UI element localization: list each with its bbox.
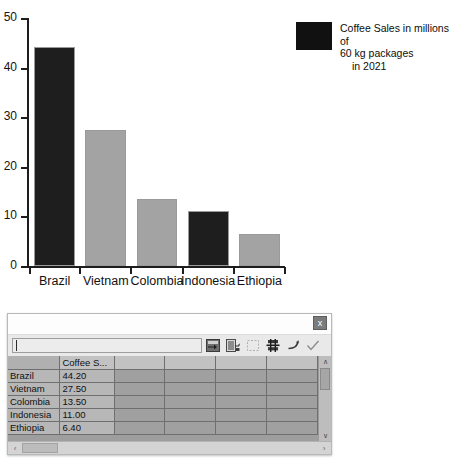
grid-empty-cell[interactable] bbox=[114, 382, 165, 395]
grid-empty-cell[interactable] bbox=[216, 395, 267, 408]
horizontal-scrollbar[interactable]: ‹ › bbox=[8, 441, 331, 454]
grid-empty-cell[interactable] bbox=[114, 369, 165, 382]
bar bbox=[85, 130, 126, 266]
scroll-up-icon[interactable]: ∧ bbox=[319, 356, 331, 367]
y-axis-tick: 30 bbox=[21, 117, 28, 119]
legend-label-line3: in 2021 bbox=[340, 60, 450, 73]
x-axis-tick bbox=[233, 267, 235, 274]
y-axis-tick-label: 20 bbox=[4, 159, 17, 173]
y-axis-tick-label: 0 bbox=[10, 258, 17, 272]
grid-value-cell[interactable]: 6.40 bbox=[60, 421, 114, 434]
grid-empty-cell[interactable] bbox=[165, 369, 216, 382]
horizontal-scrollbar-thumb[interactable] bbox=[22, 443, 58, 453]
grid-empty-cell[interactable] bbox=[165, 395, 216, 408]
data-grid[interactable]: Coffee S... Brazil44.20Vietnam27.50Colom… bbox=[8, 356, 318, 435]
grid-value-cell[interactable]: 11.00 bbox=[60, 408, 114, 421]
dialog-titlebar: x bbox=[8, 314, 331, 335]
bar bbox=[188, 211, 229, 266]
legend-label-line1: Coffee Sales in millions of bbox=[340, 22, 449, 47]
grid-empty-cell[interactable] bbox=[267, 408, 318, 421]
grid-row-label[interactable]: Ethiopia bbox=[8, 421, 60, 434]
grid-empty-cell[interactable] bbox=[165, 421, 216, 434]
grid-empty-cell[interactable] bbox=[165, 408, 216, 421]
bar bbox=[34, 47, 75, 266]
close-icon[interactable]: x bbox=[313, 316, 327, 330]
grid-column-header[interactable]: Coffee S... bbox=[60, 356, 114, 369]
table-row[interactable]: Brazil44.20 bbox=[8, 369, 318, 382]
delete-row-icon[interactable] bbox=[264, 337, 282, 354]
grid-empty-cell[interactable] bbox=[165, 382, 216, 395]
cell-input-field[interactable] bbox=[12, 338, 202, 353]
grid-empty-cell[interactable] bbox=[114, 408, 165, 421]
y-axis-tick: 40 bbox=[21, 68, 28, 70]
x-axis-tick bbox=[284, 267, 286, 274]
bars-layer bbox=[29, 18, 285, 266]
move-series-left-icon[interactable] bbox=[284, 337, 302, 354]
chart-legend: Coffee Sales in millions of 60 kg packag… bbox=[296, 22, 450, 72]
table-row[interactable]: Colombia13.50 bbox=[8, 395, 318, 408]
y-axis-tick-label: 30 bbox=[4, 109, 17, 123]
x-axis-tick bbox=[182, 267, 184, 274]
table-row[interactable]: Ethiopia6.40 bbox=[8, 421, 318, 434]
vertical-scrollbar-thumb[interactable] bbox=[320, 368, 330, 390]
table-row[interactable]: Vietnam27.50 bbox=[8, 382, 318, 395]
data-grid-container: Coffee S... Brazil44.20Vietnam27.50Colom… bbox=[8, 356, 331, 441]
grid-corner-cell[interactable] bbox=[8, 356, 60, 369]
bar bbox=[239, 234, 280, 266]
x-axis-tick bbox=[130, 267, 132, 274]
y-axis-tick-label: 50 bbox=[4, 10, 17, 24]
grid-column-header[interactable] bbox=[216, 356, 267, 369]
grid-empty-cell[interactable] bbox=[216, 421, 267, 434]
grid-row-label[interactable]: Brazil bbox=[8, 369, 60, 382]
grid-empty-cell[interactable] bbox=[216, 408, 267, 421]
legend-label-line2: 60 kg packages bbox=[340, 47, 450, 60]
accept-icon[interactable] bbox=[304, 337, 322, 354]
insert-series-icon[interactable] bbox=[224, 337, 242, 354]
grid-value-cell[interactable]: 27.50 bbox=[60, 382, 114, 395]
x-axis-label: Colombia bbox=[131, 274, 184, 288]
grid-row-label[interactable]: Colombia bbox=[8, 395, 60, 408]
y-axis-tick-label: 10 bbox=[4, 208, 17, 222]
grid-row-label[interactable]: Vietnam bbox=[8, 382, 60, 395]
grid-column-header[interactable] bbox=[165, 356, 216, 369]
grid-column-header[interactable] bbox=[267, 356, 318, 369]
grid-empty-cell[interactable] bbox=[267, 369, 318, 382]
grid-value-cell[interactable]: 13.50 bbox=[60, 395, 114, 408]
dialog-toolbar bbox=[8, 335, 331, 356]
table-row[interactable]: Indonesia11.00 bbox=[8, 408, 318, 421]
insert-text-column-icon[interactable] bbox=[244, 337, 262, 354]
y-axis-tick: 10 bbox=[21, 216, 28, 218]
data-grid-header-row: Coffee S... bbox=[8, 356, 318, 369]
y-axis-tick: 20 bbox=[21, 167, 28, 169]
grid-value-cell[interactable]: 44.20 bbox=[60, 369, 114, 382]
grid-empty-cell[interactable] bbox=[114, 421, 165, 434]
legend-swatch bbox=[296, 22, 332, 50]
data-grid-body: Brazil44.20Vietnam27.50Colombia13.50Indo… bbox=[8, 369, 318, 434]
grid-empty-cell[interactable] bbox=[114, 395, 165, 408]
x-axis-tick bbox=[29, 267, 31, 274]
grid-empty-cell[interactable] bbox=[216, 369, 267, 382]
x-axis-label: Indonesia bbox=[181, 274, 235, 288]
x-axis-labels: BrazilVietnamColombiaIndonesiaEthiopia bbox=[27, 274, 285, 294]
chart-data-table-dialog: x bbox=[7, 313, 332, 455]
y-axis-tick: 50 bbox=[21, 18, 28, 20]
scroll-left-icon[interactable]: ‹ bbox=[9, 442, 21, 454]
bar-chart: 01020304050 BrazilVietnamColombiaIndones… bbox=[0, 0, 452, 300]
x-axis-label: Vietnam bbox=[83, 274, 129, 288]
grid-empty-cell[interactable] bbox=[267, 421, 318, 434]
grid-empty-cell[interactable] bbox=[267, 395, 318, 408]
legend-label: Coffee Sales in millions of 60 kg packag… bbox=[340, 22, 450, 72]
data-grid-scroll-area: Coffee S... Brazil44.20Vietnam27.50Colom… bbox=[8, 356, 318, 441]
scroll-right-icon[interactable]: › bbox=[318, 442, 330, 454]
insert-row-icon[interactable] bbox=[204, 337, 222, 354]
grid-column-header[interactable] bbox=[114, 356, 165, 369]
grid-row-label[interactable]: Indonesia bbox=[8, 408, 60, 421]
vertical-scrollbar[interactable]: ∧ ∨ bbox=[318, 356, 331, 441]
scroll-down-icon[interactable]: ∨ bbox=[319, 430, 331, 441]
grid-empty-cell[interactable] bbox=[216, 382, 267, 395]
grid-empty-cell[interactable] bbox=[267, 382, 318, 395]
y-axis-tick: 0 bbox=[21, 266, 28, 268]
y-axis-tick-label: 40 bbox=[4, 60, 17, 74]
x-axis-tick bbox=[79, 267, 81, 274]
bar bbox=[137, 199, 178, 266]
